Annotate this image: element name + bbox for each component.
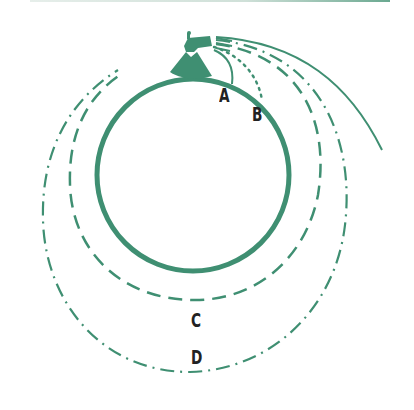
orbit-diagram (0, 0, 414, 410)
trajectory-c-dashed (70, 44, 321, 300)
label-b: B (252, 105, 262, 124)
trajectory-a (214, 50, 232, 84)
label-d: D (191, 348, 202, 367)
label-c: C (191, 311, 201, 330)
label-a: A (219, 86, 230, 105)
cannon-on-mountain-icon (170, 31, 212, 79)
